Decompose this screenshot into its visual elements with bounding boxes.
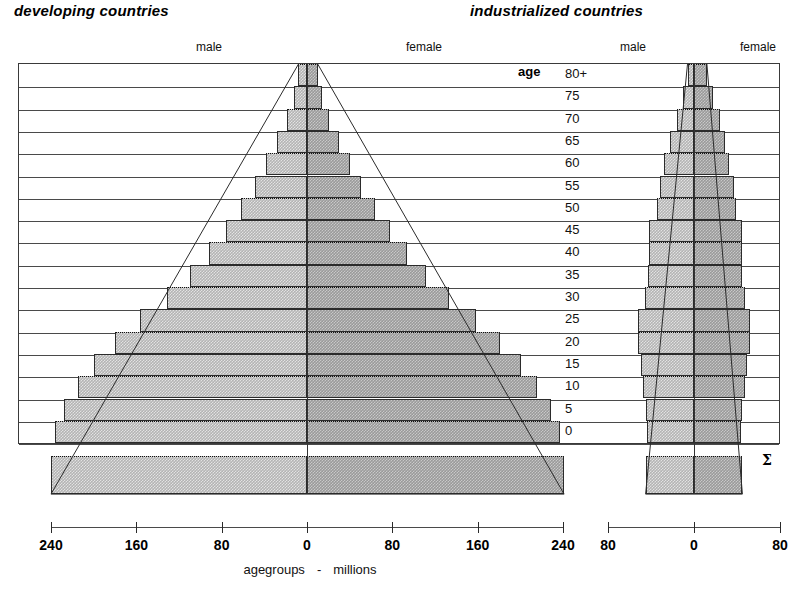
axis-left-tick-160-5: [478, 522, 479, 533]
gridline: [19, 177, 779, 178]
legend-female-left: female: [406, 40, 442, 54]
bar-female-total-developing: [307, 456, 564, 494]
gridline: [19, 221, 779, 222]
axis-left-tick-240-6: [563, 522, 564, 533]
title-developing-countries: developing countries: [14, 2, 169, 19]
age-label-20: 20: [565, 334, 609, 349]
age-label-75: 75: [565, 88, 609, 103]
age-label-70: 70: [565, 111, 609, 126]
bar-female-total-industrialized: [694, 456, 742, 494]
gridline: [19, 400, 779, 401]
age-label-60: 60: [565, 155, 609, 170]
gridline: [19, 87, 779, 88]
age-label-35: 35: [565, 267, 609, 282]
axis-right-tick-80-2: [780, 522, 781, 533]
legend-female-right: female: [740, 40, 776, 54]
axis-right-tick-0-1: [694, 522, 695, 533]
gridline: [19, 266, 779, 267]
gridline: [19, 199, 779, 200]
axis-left-ticklabel-80-2: 80: [192, 537, 252, 553]
plot-frame: [18, 63, 780, 444]
axis-left-tick-80-4: [392, 522, 393, 533]
gridline: [19, 377, 779, 378]
age-label-45: 45: [565, 222, 609, 237]
age-label-55: 55: [565, 178, 609, 193]
gridline: [19, 154, 779, 155]
gridline: [19, 132, 779, 133]
gridline: [19, 333, 779, 334]
axis-left-ticklabel-240-0: 240: [21, 537, 81, 553]
population-pyramid-figure: developing countries industrialized coun…: [0, 0, 802, 593]
axis-left-tick-160-1: [136, 522, 137, 533]
caption-agegroups: agegroups: [243, 562, 304, 577]
legend-male-left: male: [196, 40, 222, 54]
bar-male-total-industrialized: [646, 456, 694, 494]
axis-left-ticklabel-160-5: 160: [448, 537, 508, 553]
caption-millions: millions: [333, 562, 376, 577]
age-label-50: 50: [565, 200, 609, 215]
title-industrialized-countries: industrialized countries: [470, 2, 643, 19]
legend-male-right: male: [620, 40, 646, 54]
axis-right-ticklabel-80-0: 80: [578, 537, 638, 553]
age-label-65: 65: [565, 133, 609, 148]
bar-male-total-developing: [51, 456, 307, 494]
gridline: [19, 422, 779, 423]
axis-left-ticklabel-160-1: 160: [106, 537, 166, 553]
caption-separator: -: [317, 562, 321, 577]
gridline: [19, 110, 779, 111]
axis-left-tick-0-3: [307, 522, 308, 533]
sum-symbol: Σ: [762, 452, 772, 468]
age-label-10: 10: [565, 378, 609, 393]
gridline: [19, 288, 779, 289]
axis-caption: agegroups-millions: [0, 562, 620, 577]
age-label-15: 15: [565, 356, 609, 371]
axis-left-tick-80-2: [222, 522, 223, 533]
age-label-5: 5: [565, 401, 609, 416]
gridline: [19, 444, 779, 445]
axis-right-ticklabel-80-2: 80: [750, 537, 802, 553]
axis-left-tick-240-0: [51, 522, 52, 533]
age-label-80plus: 80+: [565, 66, 609, 81]
axis-right-tick-80-0: [608, 522, 609, 533]
axis-left-ticklabel-0-3: 0: [277, 537, 337, 553]
axis-right-ticklabel-0-1: 0: [664, 537, 724, 553]
gridline: [19, 355, 779, 356]
age-label-30: 30: [565, 289, 609, 304]
gridline: [19, 310, 779, 311]
age-label-0: 0: [565, 423, 609, 438]
gridline: [19, 243, 779, 244]
age-column-header: age: [518, 64, 540, 79]
age-label-25: 25: [565, 311, 609, 326]
age-label-40: 40: [565, 244, 609, 259]
axis-left-ticklabel-80-4: 80: [362, 537, 422, 553]
